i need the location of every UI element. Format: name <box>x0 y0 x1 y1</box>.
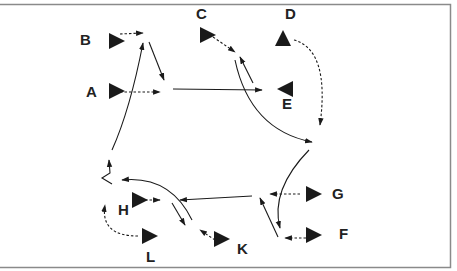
edge-e-arrow-to-c-arrow <box>240 57 253 83</box>
node-label: A <box>86 83 97 100</box>
node-k: K <box>214 231 248 257</box>
edge-c-arrow-to-curve-right <box>235 60 312 142</box>
node-label: D <box>285 5 296 22</box>
node-label: E <box>282 95 292 112</box>
edge-b-to-b-arrow <box>120 33 143 34</box>
edge-zigzag-to-b-arrow <box>112 43 143 150</box>
node-label: C <box>196 5 207 22</box>
edge-g-junction-to-h-region <box>180 196 252 200</box>
triangle-right-icon <box>109 83 125 99</box>
node-d: D <box>275 5 296 46</box>
nodes-group: ABCDEFGHKL <box>80 5 348 265</box>
node-label: G <box>332 185 344 202</box>
triangle-right-icon <box>306 186 322 202</box>
edge-k-to-k-arrow <box>200 230 215 240</box>
triangle-right-icon <box>142 228 158 244</box>
triangle-up-icon <box>275 30 291 46</box>
edge-b-arrow-to-a-arrow <box>149 42 164 80</box>
node-label: L <box>146 248 155 265</box>
node-label: H <box>118 201 129 218</box>
process-flow-diagram: ABCDEFGHKL <box>0 0 457 271</box>
node-b: B <box>80 31 125 49</box>
triangle-right-icon <box>200 27 216 43</box>
triangle-right-icon <box>306 227 322 243</box>
node-a: A <box>86 83 125 100</box>
edge-d-to-curve-down <box>294 40 322 125</box>
edge-h-corner-to-zigzag <box>102 160 112 184</box>
node-label: F <box>339 225 348 242</box>
edge-curve-top-to-f <box>278 150 309 228</box>
node-g: G <box>306 185 344 202</box>
diagram-frame <box>0 5 451 268</box>
edge-h-curve-to-k-region <box>172 203 185 225</box>
edge-a-junction-to-e <box>173 89 262 90</box>
node-l: L <box>142 228 158 265</box>
node-f: F <box>306 225 348 243</box>
edge-c-to-c-arrow <box>213 37 235 52</box>
triangle-right-icon <box>109 33 125 49</box>
node-label: K <box>237 240 248 257</box>
node-h: H <box>118 192 148 218</box>
edge-f-arrow-to-g-arrow <box>260 198 278 237</box>
node-e: E <box>277 81 293 112</box>
triangle-right-icon <box>214 231 230 247</box>
edges-group <box>102 33 322 240</box>
node-label: B <box>80 31 91 48</box>
triangle-right-icon <box>132 192 148 208</box>
